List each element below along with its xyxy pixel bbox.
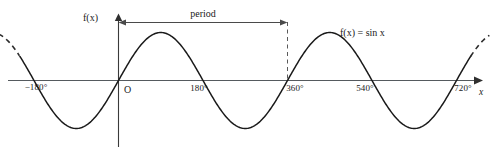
- x-tick-label-540: 540°: [356, 83, 374, 93]
- origin-label: O: [124, 84, 131, 95]
- x-tick-label-minus180: −180°: [25, 82, 48, 92]
- sine-curve-dashed-left: [0, 34, 19, 56]
- x-tick-label-360: 360°: [286, 83, 304, 93]
- y-axis-title: f(x): [83, 12, 98, 24]
- y-axis-arrowhead: [115, 14, 122, 22]
- x-axis-arrowhead: [474, 77, 483, 85]
- equation-label: f(x) = sin x: [340, 27, 385, 39]
- x-tick-label-720: 720°: [454, 83, 472, 93]
- sine-plot-svg: f(x) period f(x) = sin x O −180° 180° 36…: [0, 0, 497, 155]
- x-axis: [8, 77, 483, 85]
- period-arrow-head-right: [280, 19, 288, 25]
- x-axis-label: x: [478, 87, 484, 97]
- sine-graph-figure: f(x) period f(x) = sin x O −180° 180° 36…: [0, 0, 497, 155]
- x-tick-label-180: 180°: [190, 83, 208, 93]
- sine-curve-dashed-right: [471, 35, 490, 56]
- period-measure-arrow: [119, 19, 288, 25]
- period-label: period: [190, 8, 216, 19]
